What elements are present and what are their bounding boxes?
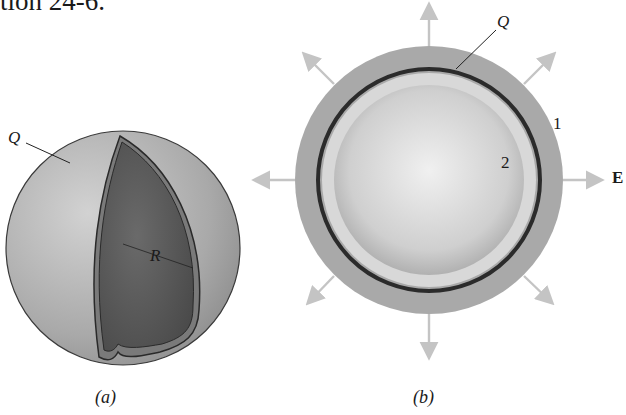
figure-b-sphere <box>295 30 563 314</box>
charge-label-b: Q <box>497 12 509 32</box>
radius-label: R <box>150 246 160 266</box>
field-label: E <box>612 168 623 188</box>
caption-a: (a) <box>95 387 116 408</box>
caption-b: (b) <box>413 387 434 408</box>
figure-canvas <box>0 0 626 415</box>
charge-label-a: Q <box>8 128 20 148</box>
region-2-label: 2 <box>501 153 510 173</box>
figure-a-sphere <box>6 131 240 365</box>
region-1-label: 1 <box>553 114 562 134</box>
